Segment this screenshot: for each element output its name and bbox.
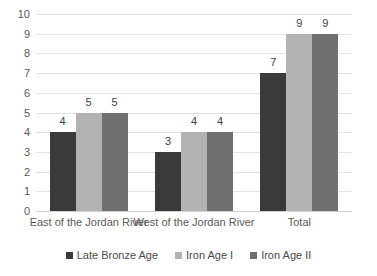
y-axis-tick-label: 5 [24,107,30,118]
bar[interactable] [286,34,312,211]
y-axis-tick-label: 7 [24,68,30,79]
legend-item[interactable]: Late Bronze Age [66,250,158,261]
bar-slot: 3 [155,14,181,211]
bar-value-label: 4 [60,116,66,127]
bar-slot: 4 [207,14,233,211]
bar-slot: 4 [181,14,207,211]
legend-swatch-icon [66,252,73,259]
x-axis: East of the Jordan RiverWest of the Jord… [36,216,352,234]
y-axis-tick-label: 1 [24,186,30,197]
bar-slot: 7 [260,14,286,211]
bar-value-label: 5 [86,97,92,108]
y-axis-tick-label: 4 [24,127,30,138]
bar[interactable] [155,152,181,211]
bar-group: 455 [50,14,128,211]
x-axis-category-label: East of the Jordan River [30,216,148,229]
bar-slot: 5 [102,14,128,211]
bar-value-label: 7 [270,57,276,68]
legend-label: Late Bronze Age [77,250,158,261]
bar-value-label: 4 [191,116,197,127]
bar-group: 799 [260,14,338,211]
y-axis-tick-label: 0 [24,206,30,217]
y-axis-tick-label: 8 [24,48,30,59]
x-axis-category-label: West of the Jordan River [134,216,255,229]
bar[interactable] [260,73,286,211]
bar-chart: 109876543210 455344799 East of the Jorda… [0,0,377,276]
bar-slot: 9 [312,14,338,211]
legend-swatch-icon [250,252,257,259]
legend-label: Iron Age II [261,250,311,261]
bar-value-label: 5 [112,97,118,108]
y-axis: 109876543210 [0,14,30,211]
bar-value-label: 9 [322,18,328,29]
bar[interactable] [50,132,76,211]
y-axis-tick-label: 2 [24,166,30,177]
legend-item[interactable]: Iron Age I [175,250,233,261]
bar-group: 344 [155,14,233,211]
bar[interactable] [181,132,207,211]
gridline [36,211,352,212]
y-axis-tick-label: 10 [18,9,30,20]
plot-area: 455344799 [36,14,352,211]
legend-label: Iron Age I [186,250,233,261]
bar-value-label: 3 [165,136,171,147]
y-axis-tick-label: 3 [24,146,30,157]
bar[interactable] [76,113,102,212]
bar-slot: 5 [76,14,102,211]
bar-value-label: 9 [296,18,302,29]
bar[interactable] [312,34,338,211]
bar-slot: 9 [286,14,312,211]
x-axis-category-label: Total [288,216,311,229]
bar[interactable] [102,113,128,212]
bar-value-label: 4 [217,116,223,127]
y-axis-tick-label: 9 [24,28,30,39]
y-axis-tick-label: 6 [24,87,30,98]
legend-item[interactable]: Iron Age II [250,250,311,261]
legend-swatch-icon [175,252,182,259]
bar-slot: 4 [50,14,76,211]
chart-legend: Late Bronze AgeIron Age IIron Age II [0,250,377,261]
bar[interactable] [207,132,233,211]
